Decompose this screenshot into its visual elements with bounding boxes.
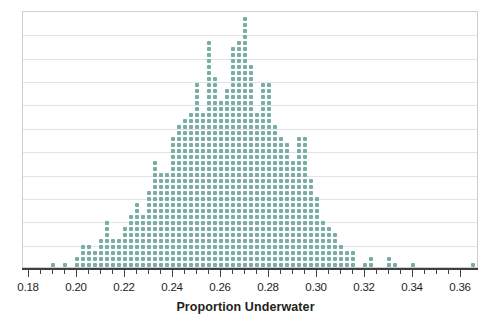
- data-dot: [237, 101, 241, 105]
- data-dot: [189, 221, 193, 225]
- data-dot: [243, 185, 247, 189]
- x-tick-label: 0.30: [305, 281, 327, 293]
- data-dot: [219, 245, 223, 249]
- data-dot: [261, 245, 265, 249]
- data-dot: [267, 173, 271, 177]
- data-dot: [471, 263, 475, 267]
- data-dot: [219, 149, 223, 153]
- data-dot: [177, 239, 181, 243]
- data-dot: [255, 239, 259, 243]
- data-dot: [105, 227, 109, 231]
- data-dot: [255, 263, 259, 267]
- data-dot: [225, 203, 229, 207]
- data-dot: [279, 251, 283, 255]
- data-dot: [129, 227, 133, 231]
- data-dot: [315, 251, 319, 255]
- data-dot: [123, 257, 127, 261]
- data-dot: [171, 149, 175, 153]
- data-dot: [183, 131, 187, 135]
- data-dot: [189, 119, 193, 123]
- data-dot: [315, 197, 319, 201]
- data-dot: [231, 257, 235, 261]
- data-dot: [237, 131, 241, 135]
- data-dot: [291, 203, 295, 207]
- data-dot: [285, 203, 289, 207]
- data-dot: [345, 251, 349, 255]
- data-dot: [297, 143, 301, 147]
- data-dot: [189, 197, 193, 201]
- data-dot: [237, 239, 241, 243]
- data-dot: [321, 227, 325, 231]
- x-tick-minor: [52, 270, 53, 274]
- data-dot: [237, 137, 241, 141]
- data-dot: [117, 251, 121, 255]
- data-dot: [153, 215, 157, 219]
- data-dot: [267, 119, 271, 123]
- data-dot: [153, 245, 157, 249]
- data-dot: [267, 197, 271, 201]
- data-dot: [177, 251, 181, 255]
- data-dot: [237, 191, 241, 195]
- data-dot: [243, 131, 247, 135]
- x-tick-minor: [88, 270, 89, 274]
- x-tick-minor: [292, 270, 293, 274]
- data-dot: [327, 263, 331, 267]
- data-dot: [219, 203, 223, 207]
- data-dot: [231, 179, 235, 183]
- data-dot: [153, 257, 157, 261]
- data-dot: [321, 239, 325, 243]
- data-dot: [291, 227, 295, 231]
- data-dot: [99, 257, 103, 261]
- data-dot: [219, 125, 223, 129]
- data-dot: [237, 251, 241, 255]
- x-tick-label: 0.26: [209, 281, 231, 293]
- data-dot: [261, 149, 265, 153]
- data-dot: [303, 221, 307, 225]
- data-dot: [321, 251, 325, 255]
- data-dot: [105, 233, 109, 237]
- data-dot: [105, 221, 109, 225]
- data-dot: [153, 161, 157, 165]
- data-dot: [285, 185, 289, 189]
- data-dot: [213, 251, 217, 255]
- data-dot: [231, 227, 235, 231]
- data-dot: [201, 119, 205, 123]
- data-dot: [111, 263, 115, 267]
- data-dot: [171, 221, 175, 225]
- data-dot: [141, 221, 145, 225]
- data-dot: [159, 197, 163, 201]
- data-dot: [231, 233, 235, 237]
- data-dot: [303, 191, 307, 195]
- data-dot: [279, 233, 283, 237]
- data-dot: [213, 119, 217, 123]
- data-dot: [249, 143, 253, 147]
- data-dot: [171, 203, 175, 207]
- data-dot: [297, 227, 301, 231]
- x-tick-minor: [340, 270, 341, 274]
- x-axis-title: Proportion Underwater: [0, 300, 491, 314]
- data-dot: [243, 71, 247, 75]
- data-dot: [291, 179, 295, 183]
- data-dot: [165, 197, 169, 201]
- data-dot: [231, 101, 235, 105]
- data-dot: [141, 245, 145, 249]
- data-dot: [249, 167, 253, 171]
- data-dot: [303, 155, 307, 159]
- data-dot: [297, 137, 301, 141]
- data-dot: [165, 251, 169, 255]
- data-dot: [243, 137, 247, 141]
- data-dot: [231, 53, 235, 57]
- data-dot: [297, 215, 301, 219]
- data-dot: [285, 245, 289, 249]
- data-dot: [231, 167, 235, 171]
- data-dot: [249, 137, 253, 141]
- data-dot: [165, 215, 169, 219]
- data-dot: [315, 209, 319, 213]
- data-dot: [237, 71, 241, 75]
- data-dot: [273, 233, 277, 237]
- x-tick-minor: [388, 270, 389, 274]
- data-dot: [249, 251, 253, 255]
- data-dot: [207, 221, 211, 225]
- data-dot: [285, 221, 289, 225]
- data-dot: [213, 89, 217, 93]
